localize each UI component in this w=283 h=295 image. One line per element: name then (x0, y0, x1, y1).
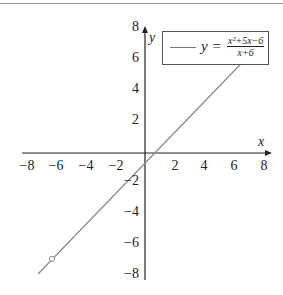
svg-text:2: 2 (132, 112, 139, 127)
svg-text:−2: −2 (124, 173, 139, 188)
series-line (38, 42, 262, 274)
y-axis-arrow-icon (142, 26, 148, 33)
svg-text:8: 8 (261, 158, 268, 173)
svg-text:8: 8 (132, 19, 139, 34)
legend-numerator: x²+5x−6 (227, 35, 264, 47)
svg-text:−4: −4 (79, 158, 94, 173)
svg-text:−8: −8 (20, 158, 35, 173)
legend-fraction: x²+5x−6 x+6 (227, 35, 264, 59)
svg-text:6: 6 (231, 158, 238, 173)
legend-line-swatch (170, 47, 196, 48)
svg-text:4: 4 (201, 158, 208, 173)
hole-marker (49, 256, 54, 261)
legend-denominator: x+6 (227, 47, 264, 59)
legend: y = x²+5x−6 x+6 (162, 31, 269, 65)
x-axis-label: x (257, 134, 265, 149)
y-tick-labels: 8 6 4 2 −2 −4 −6 −8 (124, 19, 139, 281)
svg-text:−8: −8 (124, 266, 139, 281)
x-axis-arrow-icon (265, 150, 272, 156)
legend-lhs: y = (201, 38, 222, 55)
svg-text:6: 6 (132, 50, 139, 65)
svg-text:4: 4 (132, 81, 139, 96)
y-axis-label: y (147, 30, 156, 45)
svg-text:2: 2 (172, 158, 179, 173)
svg-text:−6: −6 (49, 158, 64, 173)
svg-text:−2: −2 (109, 158, 124, 173)
svg-text:−4: −4 (124, 204, 139, 219)
svg-text:−6: −6 (124, 235, 139, 250)
